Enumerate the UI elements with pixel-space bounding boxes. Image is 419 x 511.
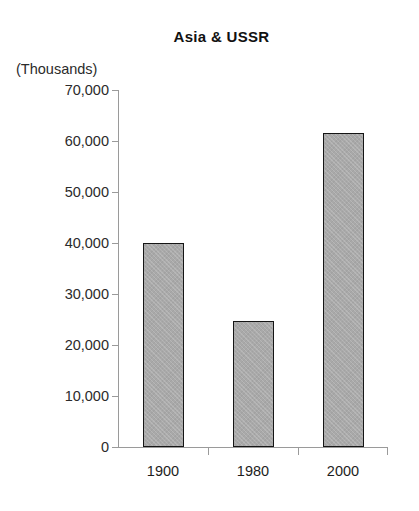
y-axis-tick-label: 30,000 bbox=[65, 286, 109, 302]
y-axis-tick-label: 70,000 bbox=[65, 82, 109, 98]
y-axis-tick-label: 20,000 bbox=[65, 337, 109, 353]
y-axis-tick-label: 0 bbox=[101, 439, 109, 455]
y-axis-tick bbox=[112, 294, 119, 295]
y-axis-line bbox=[118, 90, 119, 447]
x-axis-tick-label: 2000 bbox=[327, 463, 359, 479]
y-axis-tick bbox=[112, 396, 119, 397]
y-axis-tick-label: 60,000 bbox=[65, 133, 109, 149]
x-axis-tick bbox=[208, 447, 209, 455]
chart-title: Asia & USSR bbox=[0, 28, 419, 45]
y-axis-unit-label: (Thousands) bbox=[16, 61, 97, 77]
x-axis-tick bbox=[387, 447, 388, 455]
bar-chart-figure: Asia & USSR (Thousands) 010,00020,00030,… bbox=[0, 0, 419, 511]
x-axis-tick-label: 1900 bbox=[147, 463, 179, 479]
bar-2000 bbox=[323, 133, 364, 447]
y-axis-tick bbox=[112, 141, 119, 142]
y-axis-tick bbox=[112, 447, 119, 448]
x-axis-line bbox=[118, 447, 388, 448]
y-axis-tick-label: 50,000 bbox=[65, 184, 109, 200]
x-axis-tick bbox=[298, 447, 299, 455]
y-axis-tick-label: 10,000 bbox=[65, 388, 109, 404]
y-axis-tick bbox=[112, 345, 119, 346]
plot-area: 010,00020,00030,00040,00050,00060,00070,… bbox=[118, 90, 388, 447]
y-axis-tick bbox=[112, 243, 119, 244]
x-axis-tick-label: 1980 bbox=[237, 463, 269, 479]
bar-1980 bbox=[233, 321, 274, 447]
y-axis-tick bbox=[112, 90, 119, 91]
y-axis-tick-label: 40,000 bbox=[65, 235, 109, 251]
bar-1900 bbox=[143, 243, 184, 447]
y-axis-tick bbox=[112, 192, 119, 193]
